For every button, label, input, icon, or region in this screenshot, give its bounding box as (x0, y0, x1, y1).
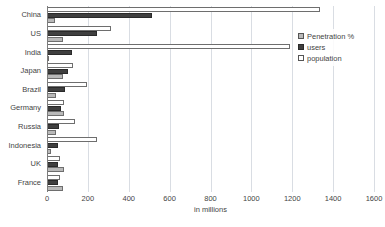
bar-penetration[interactable] (47, 18, 55, 23)
x-tick-label: 1200 (284, 194, 301, 203)
y-tick-label-us: US (31, 30, 41, 38)
x-axis: 02004006008001000120014001600 (47, 192, 374, 206)
x-tick-label: 800 (204, 194, 217, 203)
y-axis-baseline (47, 6, 48, 192)
bar-group (47, 119, 374, 135)
bar-group (47, 7, 374, 23)
bar-group (47, 82, 374, 98)
bar-population[interactable] (47, 7, 320, 12)
y-tick-label-germany: Germany (10, 104, 41, 112)
bar-users[interactable] (47, 13, 152, 18)
legend-label-users: users (307, 43, 325, 52)
bar-penetration[interactable] (47, 186, 63, 191)
bar-population[interactable] (47, 156, 60, 161)
users-swatch-icon (298, 44, 304, 50)
bar-group (47, 156, 374, 172)
bar-group (47, 100, 374, 116)
legend: Penetration % users population (296, 29, 357, 66)
bar-penetration[interactable] (47, 111, 64, 116)
legend-item-users[interactable]: users (298, 42, 354, 52)
bar-population[interactable] (47, 119, 75, 124)
bar-users[interactable] (47, 124, 59, 129)
bar-penetration[interactable] (47, 93, 56, 98)
bar-users[interactable] (47, 143, 58, 148)
penetration-swatch-icon (298, 33, 304, 39)
population-swatch-icon (298, 55, 304, 61)
legend-item-penetration[interactable]: Penetration % (298, 31, 354, 41)
y-axis: ChinaUSIndiaJapanBrazilGermanyRussiaIndo… (0, 6, 44, 192)
bar-users[interactable] (47, 69, 68, 74)
bar-users[interactable] (47, 180, 58, 185)
legend-label-penetration: Penetration % (307, 32, 354, 41)
bar-penetration[interactable] (47, 37, 63, 42)
x-tick-label: 0 (45, 194, 49, 203)
bar-penetration[interactable] (47, 74, 63, 79)
legend-item-population[interactable]: population (298, 53, 354, 63)
bar-group (47, 175, 374, 191)
y-tick-label-uk: UK (31, 160, 41, 168)
bar-population[interactable] (47, 44, 290, 49)
bar-population[interactable] (47, 82, 87, 87)
bar-population[interactable] (47, 175, 60, 180)
x-tick-label: 1000 (243, 194, 260, 203)
bar-population[interactable] (47, 26, 111, 31)
bar-population[interactable] (47, 137, 97, 142)
y-tick-label-indonesia: Indonesia (8, 142, 41, 150)
bar-penetration[interactable] (47, 130, 56, 135)
x-tick-label: 600 (163, 194, 176, 203)
bar-group (47, 137, 374, 153)
bar-population[interactable] (47, 63, 73, 68)
y-tick-label-russia: Russia (18, 123, 41, 131)
x-tick-label: 1600 (366, 194, 383, 203)
bar-population[interactable] (47, 100, 64, 105)
x-tick-label: 1400 (325, 194, 342, 203)
bar-users[interactable] (47, 106, 61, 111)
bar-users[interactable] (47, 50, 72, 55)
legend-label-population: population (307, 54, 342, 63)
gridline-x-1600 (374, 6, 375, 192)
bar-penetration[interactable] (47, 167, 64, 172)
y-tick-label-brazil: Brazil (22, 86, 41, 94)
x-axis-title: in millions (47, 205, 374, 214)
x-tick-label: 200 (82, 194, 95, 203)
bar-users[interactable] (47, 87, 65, 92)
y-tick-label-japan: Japan (21, 67, 41, 75)
bar-users[interactable] (47, 31, 97, 36)
y-tick-label-india: India (25, 49, 41, 57)
x-tick-label: 400 (122, 194, 135, 203)
bar-users[interactable] (47, 162, 58, 167)
y-tick-label-china: China (21, 11, 41, 19)
y-tick-label-france: France (18, 179, 41, 187)
bar-chart: ChinaUSIndiaJapanBrazilGermanyRussiaIndo… (0, 0, 385, 227)
